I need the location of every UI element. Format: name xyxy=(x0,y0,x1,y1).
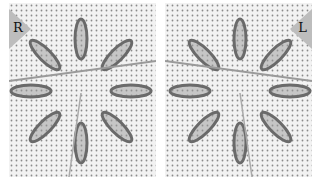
embroidery-star-illustration xyxy=(165,3,312,177)
embroidery-star-illustration xyxy=(9,3,156,177)
corner-label-l: L xyxy=(298,20,307,35)
photo-panel-left-handed: L xyxy=(165,3,312,177)
corner-label-r: R xyxy=(13,20,23,35)
photo-panel-right-handed: R xyxy=(9,3,156,177)
